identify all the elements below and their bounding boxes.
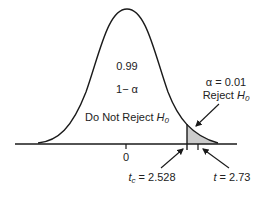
h-symbol: H <box>237 89 245 101</box>
test-statistic-label: t = 2.73 <box>213 171 250 183</box>
reject-label: Reject H0 <box>203 89 250 103</box>
do-not-reject-text: Do Not Reject <box>85 111 157 123</box>
alpha-label: α = 0.01 <box>206 76 246 88</box>
h-subscript: 0 <box>165 116 170 125</box>
area-label: 0.99 <box>116 60 137 72</box>
test-statistic-arrow <box>203 149 229 168</box>
h-subscript: 0 <box>245 94 250 103</box>
t-distribution-chart: 0.99 1− α Do Not Reject H0 α = 0.01 Reje… <box>0 0 262 197</box>
tc-value: = 2.528 <box>135 171 175 183</box>
formula-label: 1− α <box>116 83 139 95</box>
zero-tick-label: 0 <box>123 151 129 163</box>
reject-text: Reject <box>203 89 237 101</box>
h-symbol: H <box>157 111 165 123</box>
critical-value-label: tc = 2.528 <box>128 171 175 185</box>
do-not-reject-label: Do Not Reject H0 <box>85 111 169 125</box>
critical-value-arrow <box>161 149 183 168</box>
alpha-arrow <box>196 104 219 126</box>
t-value: = 2.73 <box>217 171 251 183</box>
